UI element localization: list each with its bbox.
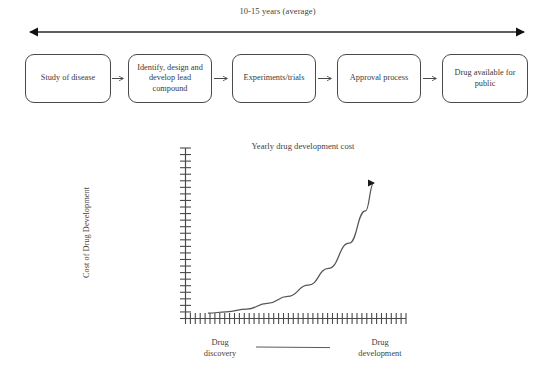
footer-label-line2: development [330, 349, 430, 360]
footer-label-line1: Drug [330, 338, 430, 349]
footer-label-drug-development: Drug development [330, 338, 430, 359]
y-axis-label: Cost of Drug Development [82, 143, 91, 323]
cost-curve [208, 183, 374, 313]
footer-label-line1: Drug [180, 338, 260, 349]
figure-root: 10-15 years (average) Study of disease I… [0, 0, 555, 378]
footer-connector-line [256, 347, 330, 348]
chart-title: Yearly drug development cost [218, 141, 388, 151]
footer-label-line2: discovery [180, 349, 260, 360]
footer-label-drug-discovery: Drug discovery [180, 338, 260, 359]
